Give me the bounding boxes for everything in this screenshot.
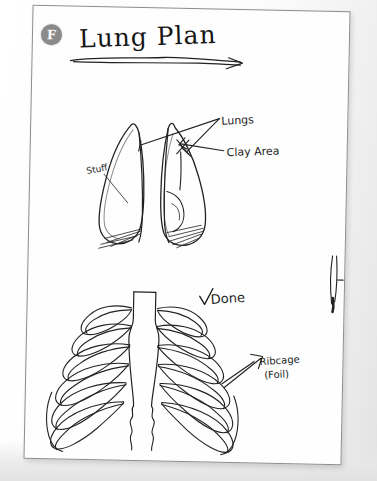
label-clay-area: Clay Area: [226, 144, 279, 159]
label-ribcage: Ribcage: [259, 354, 300, 368]
paper-sheet: F Lung Plan: [23, 5, 350, 465]
label-lungs: Lungs: [221, 113, 254, 128]
label-ribcage-material: (Foil): [264, 368, 289, 380]
paper-content: F Lung Plan: [24, 6, 349, 464]
facebook-f-icon[interactable]: F: [41, 24, 62, 45]
screenshot-root: F Lung Plan: [0, 0, 377, 481]
title-arrow-underline: [68, 49, 248, 79]
